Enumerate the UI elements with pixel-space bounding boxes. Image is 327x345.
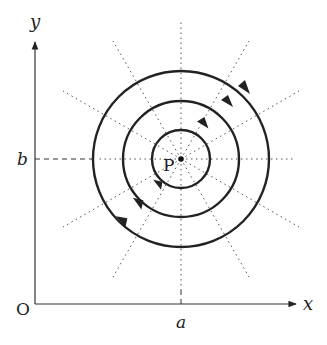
x-axis-label: x: [303, 293, 313, 314]
a-label: a: [176, 312, 186, 332]
field-diagram: y x O a b P: [0, 0, 327, 345]
p-label: P: [163, 155, 174, 175]
y-axis-label: y: [29, 11, 41, 32]
direction-arrows: [116, 80, 250, 229]
arrow-icon: [221, 95, 233, 107]
radial-dotted-lines: [63, 22, 299, 290]
guide-lines: [35, 159, 181, 304]
b-label: b: [17, 149, 28, 169]
origin-label: O: [16, 299, 30, 319]
arrow-icon: [238, 80, 250, 94]
point-p-dot: [178, 156, 184, 162]
arrow-icon: [197, 116, 210, 128]
